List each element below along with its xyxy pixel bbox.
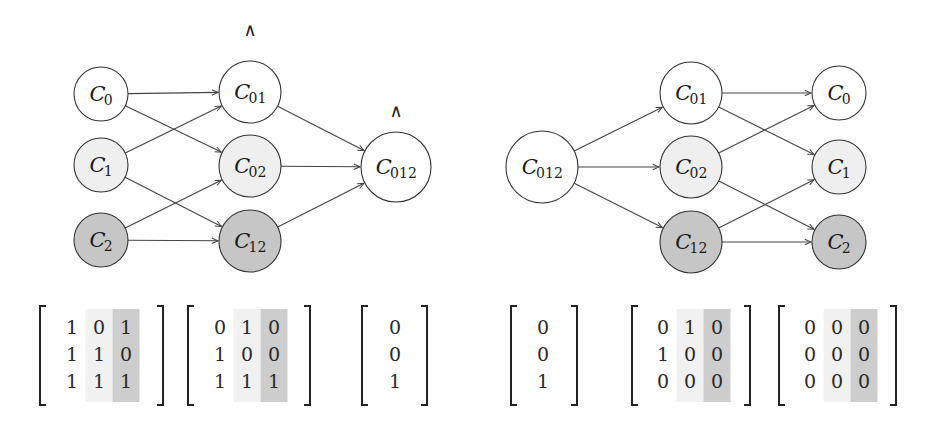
matrix-cell: 1 [241,316,253,338]
matrix-cell: 0 [241,343,253,365]
node-C12: C12 [219,210,281,272]
matrix-cell: 1 [66,316,78,338]
matrix-cell: 0 [657,316,669,338]
matrix-cell: 1 [214,343,226,365]
matrices-row: 1011101110101001110010010101000000000000… [40,306,896,405]
matrix-cell: 0 [858,316,870,338]
node-subscript: 1 [104,163,113,179]
matrix-cell: 0 [389,343,401,365]
matrix-cell: 0 [804,316,816,338]
matrix-cell: 0 [537,343,549,365]
node-subscript: 01 [690,91,708,107]
matrix-cell: 1 [66,370,78,392]
node-subscript: 12 [690,240,708,256]
edge-arrow [719,106,814,154]
matrix-cell: 1 [93,370,105,392]
node-C01: C01 [219,61,281,123]
matrix-cell: 1 [389,370,401,392]
matrix-cell: 0 [804,370,816,392]
matrix-M4: 000000000 [779,306,896,405]
node-C012: C012 [361,132,431,202]
left-bracket [779,306,785,405]
edge-arrow [574,183,662,227]
node-C012: C012 [506,131,578,203]
matrix-cell: 0 [268,343,280,365]
matrix-cell: 1 [537,370,549,392]
matrix-cell: 0 [858,343,870,365]
matrix-cell: 0 [389,316,401,338]
node-subscript: 01 [249,90,267,106]
node-subscript: 012 [390,165,417,181]
matrix-M3: 010100000 [632,306,750,405]
edge-arrow [128,240,218,241]
edge-arrow [125,177,221,226]
edge-arrow [125,180,221,228]
lattice-diagram: C0C1C2C01C02C12C012 ∧∧ C012C01C02C12C0C1… [0,0,948,432]
node-subscript: 1 [842,165,851,181]
nodes: C0C1C2C01C02C12C012 [74,61,431,272]
edge-arrow [278,106,364,150]
node-C01: C01 [660,62,722,124]
matrix-cell: 0 [684,370,696,392]
edge-arrow [281,166,360,167]
matrix-cell: 1 [241,370,253,392]
matrix-cell: 1 [657,343,669,365]
left-bracket [511,306,517,405]
matrix-cell: 0 [268,316,280,338]
node-C02: C02 [660,136,722,198]
right-bracket [157,306,163,405]
right-bracket [304,306,310,405]
left-bracket [362,306,368,405]
meet-wedge-icon: ∧ [243,19,256,40]
node-C0: C0 [812,66,866,120]
node-subscript: 012 [536,165,563,181]
matrix-V2: 001 [511,306,577,405]
right-bracket [421,306,427,405]
nodes: C012C01C02C12C0C1C2 [506,62,866,273]
edge-arrow [574,107,662,151]
matrix-cell: 1 [66,343,78,365]
matrix-cell: 0 [657,370,669,392]
matrix-cell: 0 [711,343,723,365]
node-subscript: 0 [842,91,851,107]
matrix-cell: 1 [268,370,280,392]
node-subscript: 02 [690,165,708,181]
meet-lattice-graph: C0C1C2C01C02C12C012 ∧∧ [74,19,431,272]
matrix-cell: 0 [858,370,870,392]
matrix-cell: 0 [711,316,723,338]
split-lattice-graph: C012C01C02C12C0C1C2 [506,62,866,273]
node-subscript: 2 [842,240,851,256]
node-subscript: 2 [104,238,113,254]
node-C2: C2 [812,215,866,269]
node-C1: C1 [74,138,128,192]
left-bracket [188,306,194,405]
left-bracket [632,306,638,405]
matrix-M1: 101110111 [40,306,163,405]
left-bracket [40,306,46,405]
edge-arrow [128,92,218,93]
matrix-cell: 0 [214,316,226,338]
edge-arrow [719,181,814,229]
node-C2: C2 [74,213,128,267]
matrix-cell: 0 [711,370,723,392]
matrix-V1: 001 [362,306,427,405]
matrix-cell: 0 [831,370,843,392]
node-subscript: 0 [104,92,113,108]
node-C0: C0 [74,67,128,121]
matrix-cell: 1 [684,316,696,338]
edge-arrow [719,107,814,155]
matrix-cell: 1 [214,370,226,392]
right-bracket [890,306,896,405]
matrix-cell: 1 [120,370,132,392]
meet-wedge-icon: ∧ [389,100,402,121]
right-bracket [744,306,750,405]
edge-arrow [719,180,814,228]
node-C02: C02 [219,135,281,197]
matrix-cell: 0 [120,343,132,365]
node-subscript: 12 [249,239,267,255]
matrix-cell: 0 [831,316,843,338]
matrix-cell: 1 [93,343,105,365]
matrix-cell: 0 [804,343,816,365]
matrix-cell: 0 [93,316,105,338]
node-C12: C12 [660,211,722,273]
